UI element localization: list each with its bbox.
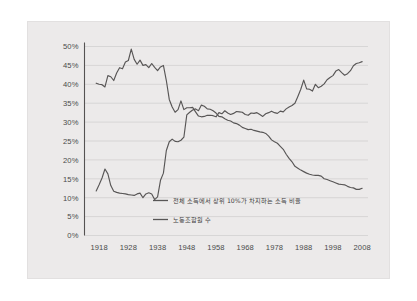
y-tick-label: 0% — [67, 231, 78, 240]
y-axis-tick-labels: 0%5%10%15%20%25%30%35%40%45%50% — [63, 42, 79, 240]
x-tick-label: 2008 — [354, 243, 371, 252]
series-lines — [96, 49, 362, 199]
chart-legend: 전체 소득에서 상위 10%가 차지하는 소득 비율노동조합원 수 — [153, 197, 301, 224]
x-tick-label: 1958 — [207, 243, 224, 252]
legend-label-1: 전체 소득에서 상위 10%가 차지하는 소득 비율 — [173, 197, 301, 205]
y-tick-label: 25% — [63, 137, 79, 146]
y-tick-label: 45% — [63, 61, 79, 70]
y-tick-label: 35% — [63, 99, 79, 108]
y-tick-label: 15% — [63, 175, 79, 184]
grid-lines — [85, 47, 369, 236]
x-tick-label: 1988 — [295, 243, 312, 252]
y-tick-label: 20% — [63, 156, 79, 165]
x-tick-label: 1938 — [149, 243, 166, 252]
x-tick-label: 1978 — [266, 243, 283, 252]
line-chart: 0%5%10%15%20%25%30%35%40%45%50% 19181928… — [0, 0, 417, 301]
x-tick-label: 1948 — [178, 243, 195, 252]
series-line-2 — [96, 105, 362, 200]
y-tick-label: 40% — [63, 80, 79, 89]
x-axis-tick-labels: 1918192819381948195819681978198819982008 — [90, 243, 370, 252]
y-tick-label: 50% — [63, 42, 79, 51]
series-line-1 — [96, 49, 362, 117]
y-tick-label: 5% — [67, 212, 78, 221]
y-tick-label: 10% — [63, 194, 79, 203]
x-tick-label: 1998 — [324, 243, 341, 252]
figure-root: 0%5%10%15%20%25%30%35%40%45%50% 19181928… — [0, 0, 417, 301]
x-tick-label: 1928 — [120, 243, 137, 252]
legend-label-2: 노동조합원 수 — [173, 216, 211, 224]
y-tick-label: 30% — [63, 118, 79, 127]
x-tick-label: 1918 — [90, 243, 107, 252]
x-tick-label: 1968 — [237, 243, 254, 252]
